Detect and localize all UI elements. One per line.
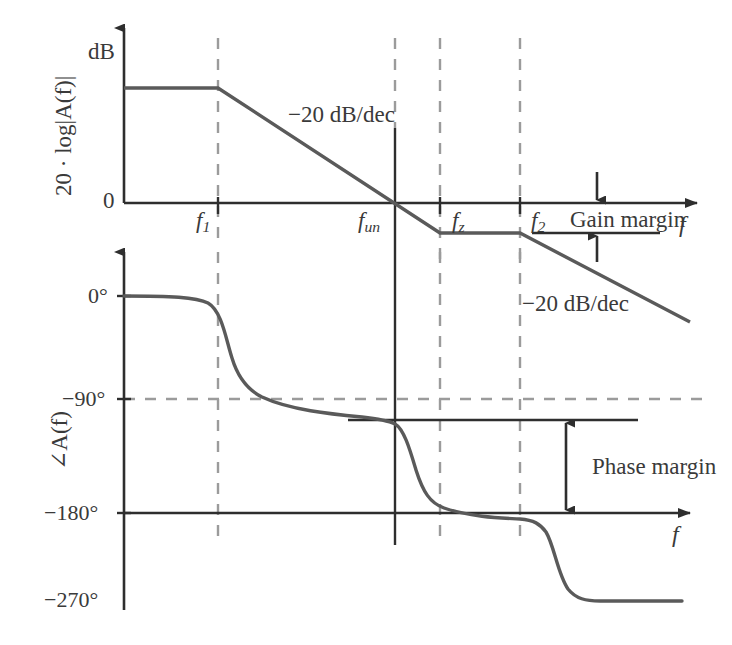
phase-tick-label-minus90: −90°	[62, 388, 105, 410]
magnitude-zero-label: 0	[103, 189, 115, 212]
phase-margin-label: Phase margin	[592, 455, 716, 478]
bode-plot-svg	[0, 0, 732, 645]
bode-plot-figure: 20 · log|A(f)| dB 0 f1 fun fz f2 −20 dB/…	[0, 0, 732, 645]
slope-label-upper: −20 dB/dec	[288, 103, 395, 126]
magnitude-response-curve	[124, 88, 690, 322]
slope-label-lower: −20 dB/dec	[522, 292, 629, 315]
phase-tick-label-minus270: −270°	[44, 589, 98, 611]
phase-tick-label-minus180: −180°	[44, 502, 98, 524]
tick-label-f2: f2	[531, 209, 545, 235]
tick-label-f1: f1	[196, 209, 210, 235]
magnitude-unit-label: dB	[88, 40, 115, 63]
phase-response-curve	[124, 296, 682, 601]
phase-x-axis-label: f	[672, 522, 679, 546]
tick-label-fun: fun	[358, 209, 380, 235]
phase-tick-label-0: 0°	[88, 285, 108, 307]
phase-y-axis-label: ∠A(f)	[48, 411, 71, 470]
tick-label-fz: fz	[452, 209, 464, 235]
magnitude-x-axis-label: f	[679, 212, 686, 236]
magnitude-y-axis-label: 20 · log|A(f)|	[52, 76, 75, 196]
gain-margin-label: Gain margin	[570, 208, 685, 231]
